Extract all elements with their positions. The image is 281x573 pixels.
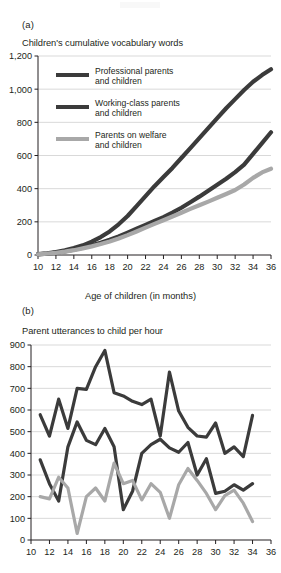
svg-text:32: 32 — [229, 547, 239, 557]
legend-label-professional-line1: Professional parents — [95, 66, 173, 76]
svg-text:600: 600 — [17, 151, 32, 161]
legend-label-professional-line2: and children — [95, 76, 173, 86]
svg-text:22: 22 — [140, 262, 150, 272]
legend-label-professional: Professional parents and children — [95, 66, 173, 87]
svg-text:36: 36 — [266, 262, 276, 272]
legend-label-welfare: Parents on welfare and children — [95, 130, 167, 151]
svg-text:1,200: 1,200 — [9, 51, 32, 61]
svg-text:0: 0 — [20, 535, 25, 545]
svg-text:32: 32 — [230, 262, 240, 272]
svg-text:24: 24 — [158, 262, 168, 272]
legend-label-working-class: Working-class parents and children — [95, 98, 180, 119]
svg-text:400: 400 — [17, 184, 32, 194]
svg-text:22: 22 — [137, 547, 147, 557]
panel-b-letter: (b) — [22, 305, 34, 316]
svg-text:14: 14 — [69, 262, 79, 272]
legend-swatch-professional — [56, 73, 89, 78]
legend-label-working-class-line2: and children — [95, 108, 180, 118]
svg-text:20: 20 — [122, 262, 132, 272]
svg-text:1,000: 1,000 — [9, 85, 32, 95]
svg-text:200: 200 — [17, 217, 32, 227]
svg-text:20: 20 — [118, 547, 128, 557]
svg-text:100: 100 — [10, 514, 25, 524]
svg-text:900: 900 — [10, 340, 25, 350]
svg-text:200: 200 — [10, 492, 25, 502]
panel-a-title: Children's cumulative vocabulary words — [22, 38, 183, 48]
svg-text:300: 300 — [10, 470, 25, 480]
svg-text:500: 500 — [10, 427, 25, 437]
svg-text:30: 30 — [212, 262, 222, 272]
svg-text:10: 10 — [33, 262, 43, 272]
svg-text:36: 36 — [266, 547, 276, 557]
svg-text:34: 34 — [248, 262, 258, 272]
panel-a-xaxis-title: Age of children (in months) — [0, 291, 281, 301]
svg-text:14: 14 — [63, 547, 73, 557]
legend-label-working-class-line1: Working-class parents — [95, 98, 180, 108]
legend-label-welfare-line2: and children — [95, 140, 167, 150]
svg-text:18: 18 — [105, 262, 115, 272]
svg-text:18: 18 — [100, 547, 110, 557]
scan-artifact — [120, 2, 160, 8]
panel-b-title: Parent utterances to child per hour — [22, 326, 163, 336]
svg-text:800: 800 — [17, 118, 32, 128]
svg-text:10: 10 — [26, 547, 36, 557]
svg-text:34: 34 — [247, 547, 257, 557]
legend-label-welfare-line1: Parents on welfare — [95, 130, 167, 140]
panel-b-plot: 0100200300400500600700800900101214161820… — [0, 339, 281, 573]
svg-text:400: 400 — [10, 449, 25, 459]
svg-text:800: 800 — [10, 362, 25, 372]
legend-swatch-working-class — [56, 105, 89, 110]
svg-text:26: 26 — [174, 547, 184, 557]
legend-swatch-welfare — [56, 137, 89, 142]
svg-text:30: 30 — [210, 547, 220, 557]
panel-b-svg: 0100200300400500600700800900101214161820… — [0, 339, 281, 573]
svg-text:12: 12 — [44, 547, 54, 557]
svg-text:16: 16 — [87, 262, 97, 272]
svg-text:26: 26 — [176, 262, 186, 272]
svg-text:700: 700 — [10, 384, 25, 394]
svg-text:24: 24 — [155, 547, 165, 557]
svg-text:12: 12 — [51, 262, 61, 272]
svg-text:600: 600 — [10, 405, 25, 415]
svg-text:28: 28 — [192, 547, 202, 557]
svg-text:16: 16 — [81, 547, 91, 557]
svg-text:28: 28 — [194, 262, 204, 272]
panel-a-letter: (a) — [22, 19, 34, 30]
svg-text:0: 0 — [27, 250, 32, 260]
